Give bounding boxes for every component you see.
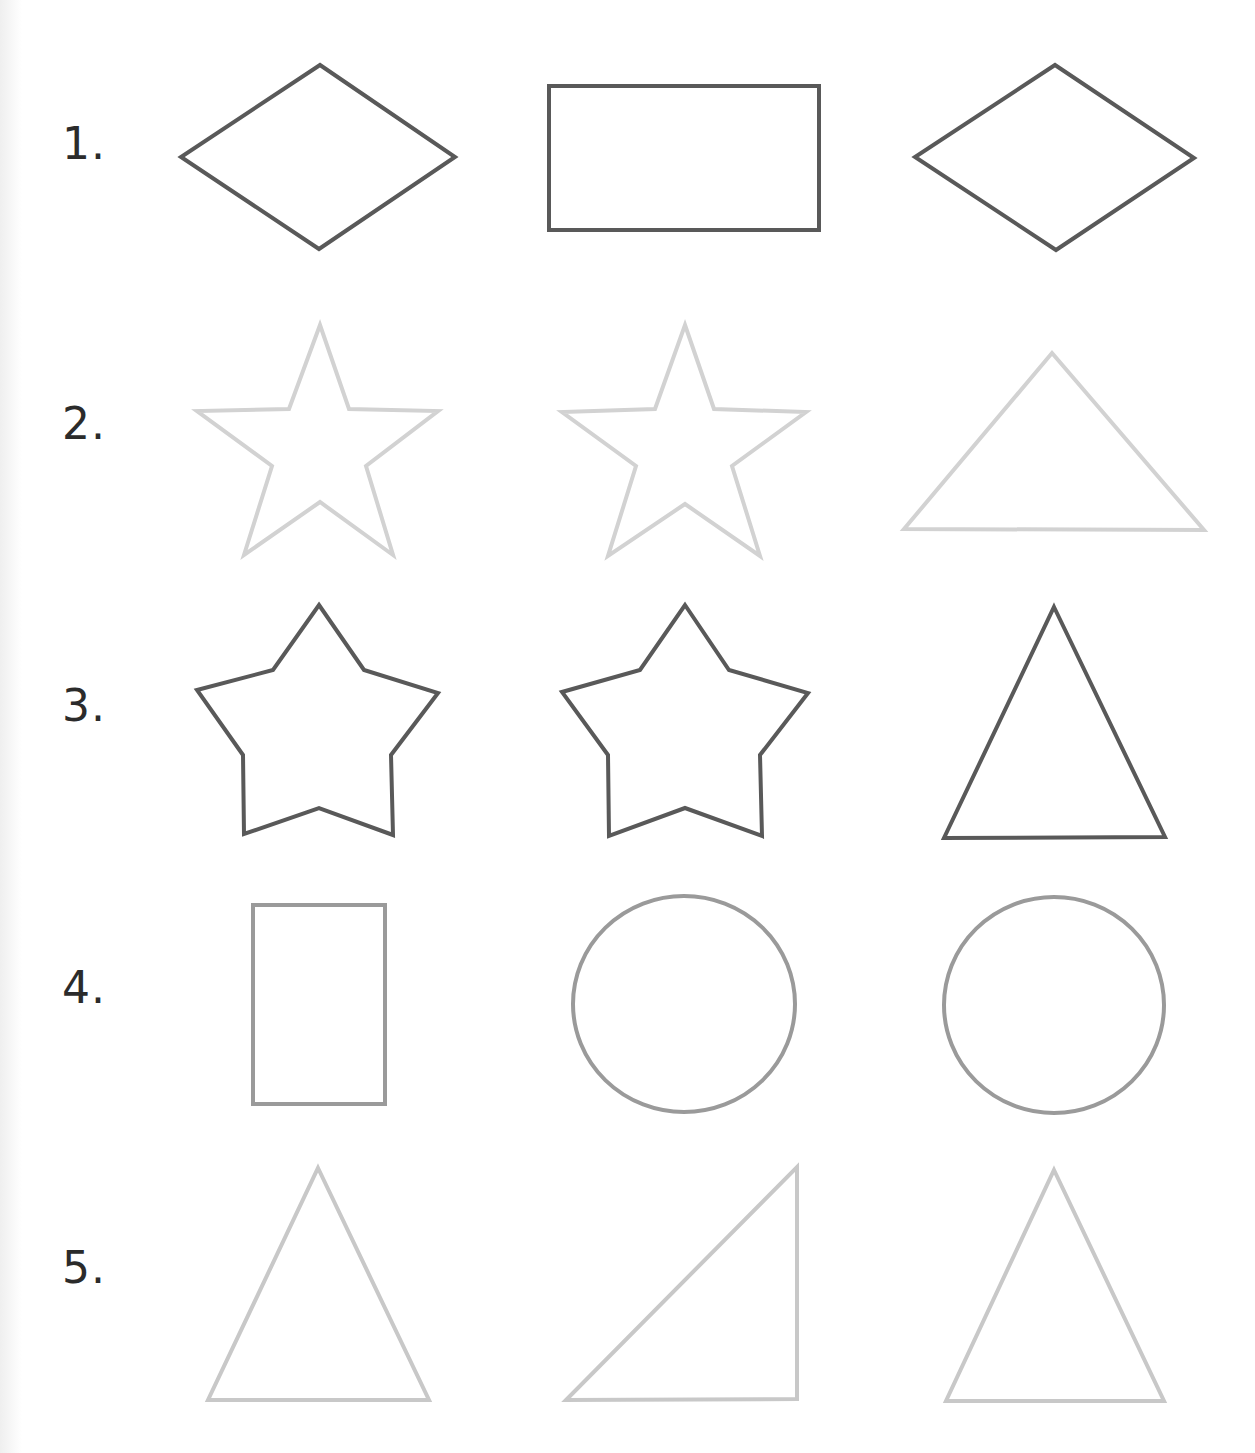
circle-shape[interactable] bbox=[944, 897, 1164, 1113]
rounded-star-shape[interactable] bbox=[197, 605, 438, 835]
circle-shape[interactable] bbox=[573, 896, 795, 1112]
row-3-shapes bbox=[197, 605, 1165, 838]
rectangle-shape[interactable] bbox=[253, 905, 385, 1104]
rounded-star-shape[interactable] bbox=[562, 605, 808, 836]
triangle-shape[interactable] bbox=[208, 1168, 429, 1400]
triangle-shape[interactable] bbox=[944, 607, 1165, 838]
triangle-shape[interactable] bbox=[904, 353, 1204, 530]
diamond-shape[interactable] bbox=[181, 65, 455, 249]
right-triangle-shape[interactable] bbox=[566, 1167, 797, 1400]
row-5-shapes bbox=[208, 1167, 1164, 1401]
triangle-shape[interactable] bbox=[946, 1170, 1164, 1401]
row-2-shapes bbox=[197, 325, 1204, 556]
star-shape[interactable] bbox=[562, 325, 806, 556]
star-shape[interactable] bbox=[197, 325, 438, 555]
rectangle-shape[interactable] bbox=[549, 86, 819, 230]
diamond-shape[interactable] bbox=[915, 65, 1194, 250]
row-4-shapes bbox=[253, 896, 1164, 1113]
shapes-canvas bbox=[0, 0, 1255, 1453]
row-1-shapes bbox=[181, 65, 1194, 250]
